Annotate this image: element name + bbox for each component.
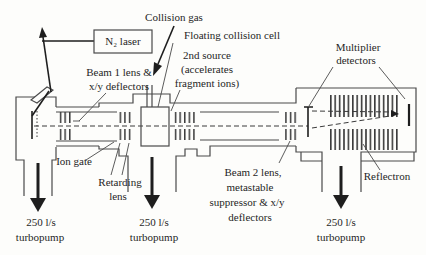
ion-gate-retarding-lens-top	[117, 112, 131, 123]
floating-cell-leader	[158, 43, 173, 107]
label-multiplier-1: Multiplier	[336, 41, 381, 53]
label-beam2-3: suppressor & x/y	[209, 196, 285, 208]
label-collision-gas: Collision gas	[145, 11, 203, 23]
label-pump1-name: turbopump	[16, 231, 65, 243]
ion-gate-retarding-lens-bottom	[117, 129, 131, 140]
laser-beam-vertical	[43, 37, 51, 92]
reflectron-grid-top	[330, 95, 400, 117]
pump1-arrow-icon	[30, 163, 46, 212]
pump3-arrow-icon	[333, 166, 349, 209]
detector-1	[304, 107, 313, 137]
label-second-source-2: (accelerates	[181, 63, 233, 76]
multiplier-leader-right	[379, 67, 405, 99]
label-beam1-1: Beam 1 lens &	[86, 66, 152, 78]
beam2-lens-bottom	[283, 129, 297, 140]
label-pump2-name: turbopump	[130, 231, 179, 243]
ion-path-return	[312, 116, 390, 128]
multiplier-leader-left	[309, 67, 333, 106]
label-retarding-2: lens	[109, 190, 127, 202]
second-source-leader	[171, 90, 180, 111]
label-n2-laser: N₂ laser	[105, 35, 141, 47]
beam1-lens-bottom	[59, 129, 73, 140]
label-pump3-name: turbopump	[317, 231, 366, 243]
label-reflectron: Reflectron	[364, 170, 411, 182]
label-second-source-1: 2nd source	[183, 49, 231, 61]
label-beam2-1: Beam 2 lens,	[224, 166, 281, 178]
label-pump3-flow: 250 l/s	[326, 216, 356, 228]
beam2-leader	[279, 141, 290, 163]
pump2-arrow-icon	[144, 157, 160, 209]
beam1-lens-top	[59, 112, 73, 123]
second-source-lens-bottom	[172, 129, 196, 140]
label-beam2-2: metastable	[226, 181, 273, 193]
label-pump1-flow: 250 l/s	[26, 216, 56, 228]
label-floating-cell: Floating collision cell	[184, 29, 280, 41]
laser-beam-arrowhead-icon	[39, 27, 47, 38]
retarding-lens-leaders	[111, 143, 129, 175]
mass-spectrometer-diagram: Collision gas N₂ laser Floating collisio…	[0, 0, 426, 255]
beam2-lens-top	[283, 112, 297, 123]
label-retarding-1: Retarding	[98, 176, 142, 188]
source-chamber	[16, 97, 56, 196]
label-ion-gate: Ion gate	[56, 155, 92, 167]
label-beam1-2: x/y deflectors	[89, 80, 149, 92]
label-multiplier-2: detectors	[336, 54, 376, 66]
second-source-lens-top	[172, 112, 196, 123]
reflectron-region	[304, 95, 409, 150]
label-beam2-4: deflectors	[228, 211, 271, 223]
label-pump2-flow: 250 l/s	[139, 216, 169, 228]
label-second-source-3: fragment ions)	[175, 77, 240, 90]
